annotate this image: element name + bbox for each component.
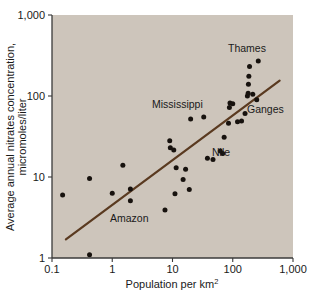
data-point	[246, 91, 251, 96]
data-point	[246, 82, 251, 87]
river-label-nile: Nile	[212, 146, 230, 158]
data-point	[201, 115, 206, 120]
data-point	[188, 117, 193, 122]
data-point	[254, 97, 259, 102]
x-tick-label: 0.1	[44, 263, 59, 275]
data-point	[256, 59, 261, 64]
data-point	[60, 192, 65, 197]
y-tick-label: 1,000	[17, 9, 45, 21]
x-tick-label: 1,000	[279, 263, 307, 275]
y-axis-title-line1: Average annual nitrates concentration,	[4, 43, 16, 231]
data-point	[247, 64, 252, 69]
data-point	[181, 177, 186, 182]
x-axis-title-exponent: 2	[214, 277, 218, 286]
river-label-amazon: Amazon	[110, 212, 149, 224]
y-tick-label: 100	[27, 90, 45, 102]
data-point	[172, 191, 177, 196]
data-point	[222, 135, 227, 140]
data-point	[250, 92, 255, 97]
chart-figure: ThamesGangesMississippiNileAmazon 0.1110…	[0, 0, 309, 299]
data-point	[128, 198, 133, 203]
y-axis-title-line2: micromoles/liter	[16, 98, 28, 175]
river-label-ganges: Ganges	[247, 103, 284, 115]
nitrates-vs-population-scatter-chart: ThamesGangesMississippiNileAmazon 0.1110…	[0, 0, 309, 299]
data-point	[171, 148, 176, 153]
data-point	[87, 252, 92, 257]
data-point	[128, 187, 133, 192]
x-axis-title: Population per km2	[126, 277, 219, 290]
data-point	[87, 176, 92, 181]
data-point	[183, 167, 188, 172]
x-tick-label: 1	[109, 263, 115, 275]
data-point	[226, 121, 231, 126]
data-point	[230, 101, 235, 106]
data-point	[110, 191, 115, 196]
y-tick-label: 1	[39, 252, 45, 264]
x-tick-label: 100	[224, 263, 242, 275]
data-point	[174, 165, 179, 170]
data-point	[162, 208, 167, 213]
data-point	[120, 163, 125, 168]
data-point	[246, 74, 251, 79]
data-point	[227, 105, 232, 110]
data-point	[205, 156, 210, 161]
data-point	[239, 119, 244, 124]
y-tick-label: 10	[33, 171, 45, 183]
river-label-mississippi: Mississippi	[152, 98, 203, 110]
x-axis-title-base: Population per km	[126, 278, 215, 290]
data-point	[167, 138, 172, 143]
river-label-thames: Thames	[228, 42, 266, 54]
x-tick-label: 10	[166, 263, 178, 275]
data-point	[187, 187, 192, 192]
